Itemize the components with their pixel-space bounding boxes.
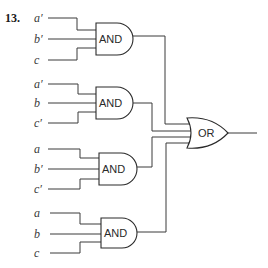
gate-3-input-1-wire xyxy=(48,149,99,158)
gate-2-input-1-label: a′ xyxy=(34,77,43,91)
gate-2-label: AND xyxy=(99,97,122,109)
gate-2-input-1-wire xyxy=(48,84,96,94)
gate-4-label: AND xyxy=(104,227,127,239)
gate-1-output-wire xyxy=(133,36,190,124)
gate-3-label: AND xyxy=(102,163,125,175)
gate-1-input-3-wire xyxy=(48,48,96,60)
gate-4-input-2-label: b xyxy=(34,227,40,241)
gate-1-input-1-label: a′ xyxy=(34,11,43,25)
gate-2-input-2-label: b xyxy=(34,96,40,110)
gate-1-label: AND xyxy=(99,33,122,45)
gate-1-input-3-label: c xyxy=(34,53,40,67)
and-gate-3: a b′ c′ AND xyxy=(34,137,191,196)
and-gate-2: a′ b c′ AND xyxy=(34,77,191,131)
or-gate: OR xyxy=(187,118,257,148)
gate-4-input-3-label: c xyxy=(34,246,40,260)
gate-4-output-wire xyxy=(137,143,190,232)
gate-3-input-3-label: c′ xyxy=(34,182,42,196)
gate-1-input-1-wire xyxy=(48,18,96,30)
gate-1-input-2-label: b′ xyxy=(34,32,43,46)
logic-circuit-diagram: 13. a′ b′ c AND a′ b c′ AND a b′ c′ AND xyxy=(0,0,268,268)
gate-4-input-3-wire xyxy=(50,242,101,253)
gate-2-input-3-wire xyxy=(48,112,96,123)
gate-3-input-1-label: a xyxy=(34,142,40,156)
gate-4-input-1-wire xyxy=(50,213,101,224)
gate-2-output-wire xyxy=(133,103,191,131)
gate-3-input-2-label: b′ xyxy=(34,162,43,176)
gate-4-input-1-label: a xyxy=(34,206,40,220)
gate-3-output-wire xyxy=(137,137,191,167)
or-gate-label: OR xyxy=(198,127,215,139)
problem-number: 13. xyxy=(5,11,20,25)
gate-3-input-3-wire xyxy=(48,179,99,189)
gate-2-input-3-label: c′ xyxy=(34,116,42,130)
